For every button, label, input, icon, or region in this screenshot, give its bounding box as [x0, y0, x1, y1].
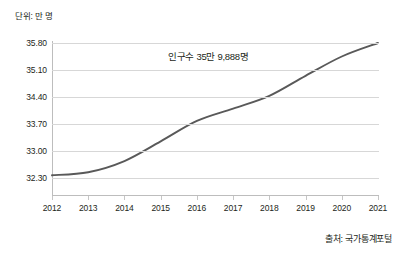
- y-tick-label-34.40: 34.40: [26, 92, 47, 102]
- y-tick-label-32.30: 32.30: [26, 173, 47, 183]
- gridline-33.00: [52, 151, 379, 152]
- x-tick-label-2016: 2016: [188, 203, 207, 213]
- x-tick-mark-2017: [233, 196, 234, 200]
- gridline-34.40: [52, 97, 379, 98]
- x-tick-mark-2014: [124, 196, 125, 200]
- gridline-35.80: [52, 43, 379, 44]
- y-tick-label-35.10: 35.10: [26, 65, 47, 75]
- x-tick-mark-2019: [306, 196, 307, 200]
- source-label: 출처: 국가통계포털: [325, 232, 392, 245]
- y-tick-label-35.80: 35.80: [26, 38, 47, 48]
- y-tick-label-33.00: 33.00: [26, 146, 47, 156]
- x-tick-mark-2020: [342, 196, 343, 200]
- y-tick-label-33.70: 33.70: [26, 119, 47, 129]
- x-tick-label-2020: 2020: [333, 203, 352, 213]
- x-tick-mark-2013: [88, 196, 89, 200]
- y-axis-tick-labels: 35.8035.1034.4033.7033.0032.30: [0, 0, 47, 258]
- x-tick-label-2013: 2013: [79, 203, 98, 213]
- x-tick-label-2019: 2019: [296, 203, 315, 213]
- x-tick-mark-2015: [161, 196, 162, 200]
- x-tick-mark-2018: [269, 196, 270, 200]
- x-axis-line: [52, 195, 379, 196]
- x-tick-label-2021: 2021: [369, 203, 388, 213]
- gridline-33.70: [52, 124, 379, 125]
- x-tick-mark-2016: [197, 196, 198, 200]
- x-tick-label-2018: 2018: [260, 203, 279, 213]
- plot-area: [52, 43, 378, 195]
- x-tick-mark-2021: [378, 196, 379, 200]
- x-tick-label-2012: 2012: [43, 203, 62, 213]
- gridline-32.30: [52, 178, 379, 179]
- population-annotation: 인구수 35만 9,888명: [168, 49, 248, 63]
- x-tick-label-2014: 2014: [115, 203, 134, 213]
- x-tick-mark-2012: [52, 196, 53, 200]
- population-line-chart: 단위: 만 명 35.8035.1034.4033.7033.0032.30 인…: [0, 0, 408, 258]
- x-tick-label-2017: 2017: [224, 203, 243, 213]
- x-tick-label-2015: 2015: [151, 203, 170, 213]
- gridline-35.10: [52, 70, 379, 71]
